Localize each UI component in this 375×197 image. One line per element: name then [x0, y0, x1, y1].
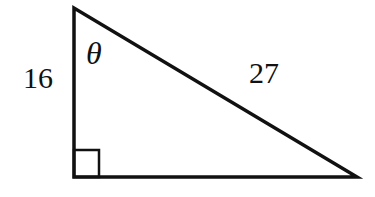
right-angle-marker [74, 150, 99, 177]
triangle-figure [0, 0, 375, 197]
hypotenuse-label: 27 [249, 58, 279, 88]
angle-theta-label: θ [86, 37, 102, 69]
vertical-leg-label: 16 [23, 63, 53, 93]
triangle-diagram: 16 θ 27 [0, 0, 375, 197]
right-triangle [74, 8, 357, 177]
